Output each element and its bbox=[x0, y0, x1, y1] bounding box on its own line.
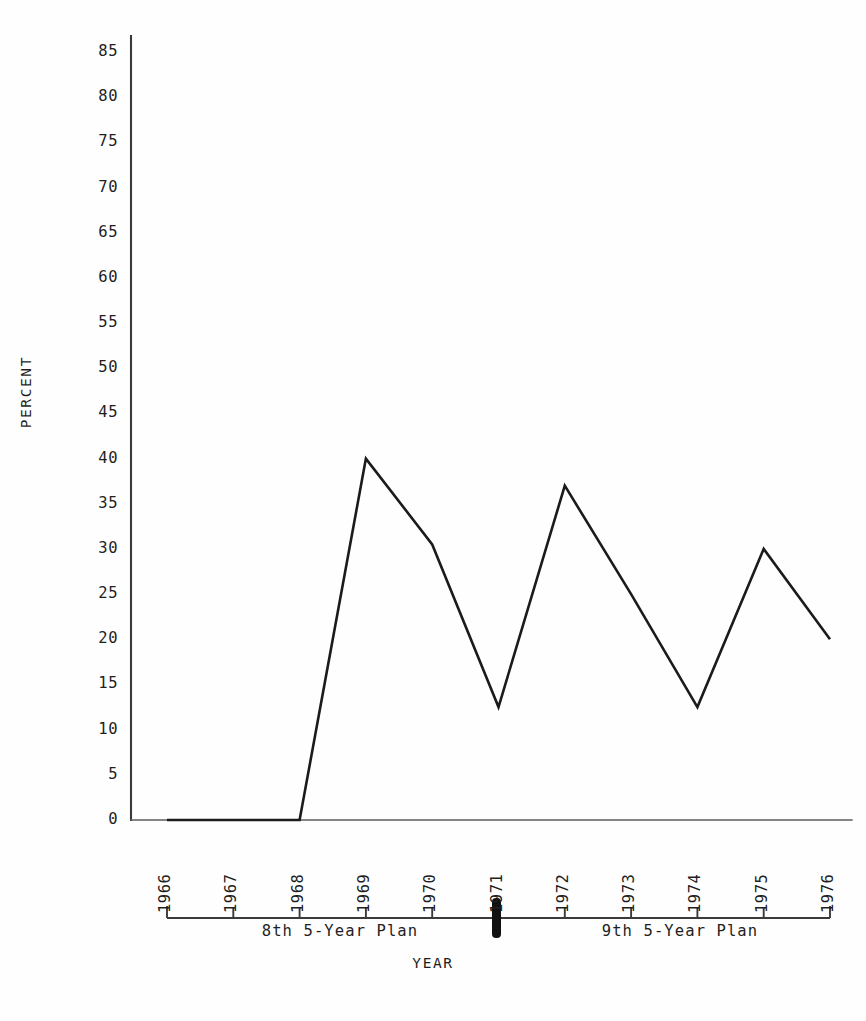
y-tick-label: 80 bbox=[72, 87, 118, 105]
x-tick-label: 1970 bbox=[421, 874, 439, 913]
x-tick-label: 1967 bbox=[222, 874, 240, 913]
y-tick-label: 15 bbox=[72, 674, 118, 692]
x-tick-label: 1974 bbox=[686, 874, 704, 913]
x-tick-label: 1968 bbox=[289, 874, 307, 913]
x-tick-label: 1966 bbox=[156, 874, 174, 913]
x-tick-label: 1975 bbox=[753, 874, 771, 913]
y-tick-label: 0 bbox=[72, 810, 118, 828]
y-tick-label: 25 bbox=[72, 584, 118, 602]
y-tick-label: 55 bbox=[72, 313, 118, 331]
y-tick-label: 30 bbox=[72, 539, 118, 557]
x-tick-label: 1972 bbox=[554, 874, 572, 913]
x-axis-title: YEAR bbox=[0, 955, 866, 971]
y-tick-label: 40 bbox=[72, 449, 118, 467]
y-tick-label: 10 bbox=[72, 720, 118, 738]
chart-figure: 0510152025303540455055606570758085 19661… bbox=[0, 0, 866, 1021]
y-tick-label: 35 bbox=[72, 494, 118, 512]
y-tick-label: 60 bbox=[72, 268, 118, 286]
y-tick-label: 5 bbox=[72, 765, 118, 783]
period-label-9th-plan: 9th 5-Year Plan bbox=[530, 922, 830, 940]
data-series-line bbox=[167, 459, 830, 820]
x-tick-label: 1969 bbox=[355, 874, 373, 913]
y-tick-label: 50 bbox=[72, 358, 118, 376]
y-tick-label: 65 bbox=[72, 223, 118, 241]
y-tick-label: 75 bbox=[72, 132, 118, 150]
period-label-8th-plan: 8th 5-Year Plan bbox=[190, 922, 490, 940]
y-tick-label: 45 bbox=[72, 403, 118, 421]
chart-plot-area bbox=[0, 0, 866, 1021]
x-tick-label: 1971 bbox=[488, 874, 506, 913]
y-tick-label: 20 bbox=[72, 629, 118, 647]
x-tick-label: 1976 bbox=[819, 874, 837, 913]
y-tick-label: 85 bbox=[72, 42, 118, 60]
x-tick-label: 1973 bbox=[620, 874, 638, 913]
y-tick-label: 70 bbox=[72, 178, 118, 196]
y-axis-title: PERCENT bbox=[18, 356, 34, 428]
